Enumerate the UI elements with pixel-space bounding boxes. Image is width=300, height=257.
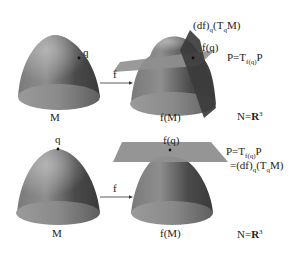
surface-fm-bottom [131,156,213,225]
label-q-bottom: q [55,134,61,145]
label-tangent-image-top: (df)q(TqM) [193,20,240,34]
label-plane-bottom: P=Tf(q)P [226,146,262,160]
point-fq-bottom [169,149,172,152]
label-fq-top: f(q) [202,42,219,53]
point-fq-top [192,57,195,60]
point-q-top [78,57,81,60]
label-q-top: q [83,47,89,58]
label-codomain-bottom: N=R3 [237,229,263,240]
diagram-canvas [0,0,300,257]
label-fm-top: f(M) [160,112,181,123]
label-f-bottom: f [113,183,117,194]
label-plane-top: P=Tf(q)P [227,52,263,66]
surface-m-bottom [16,149,100,225]
arrow-f-top [100,81,133,84]
arrow-f-bottom [100,195,133,198]
label-fm-bottom: f(M) [160,228,181,239]
label-fq-bottom: f(q) [163,135,180,146]
label-codomain-top: N=R3 [237,111,263,122]
label-m-bottom: M [52,228,62,239]
label-equality-bottom: =(df)q(TqM) [230,160,284,174]
point-q-bottom [57,148,60,151]
label-f-top: f [113,69,117,80]
label-m-top: M [50,112,60,123]
